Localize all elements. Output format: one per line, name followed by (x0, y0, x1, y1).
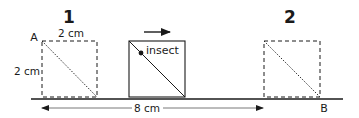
corner-label-a: A (30, 31, 38, 44)
insect-on-box-diagram: 1 2 A 2 cm 2 cm insect B 8 cm (0, 0, 359, 118)
box-2-diagonal (264, 41, 320, 97)
insect-dot (139, 51, 144, 56)
position-2-label: 2 (284, 7, 296, 27)
box-height-label: 2 cm (14, 65, 40, 77)
box-1-diagonal (42, 41, 97, 97)
corner-label-b: B (320, 102, 328, 115)
position-1-label: 1 (63, 7, 75, 27)
displacement-label: 8 cm (134, 102, 160, 114)
insect-label: insect (146, 44, 180, 57)
box-width-label: 2 cm (58, 27, 84, 39)
